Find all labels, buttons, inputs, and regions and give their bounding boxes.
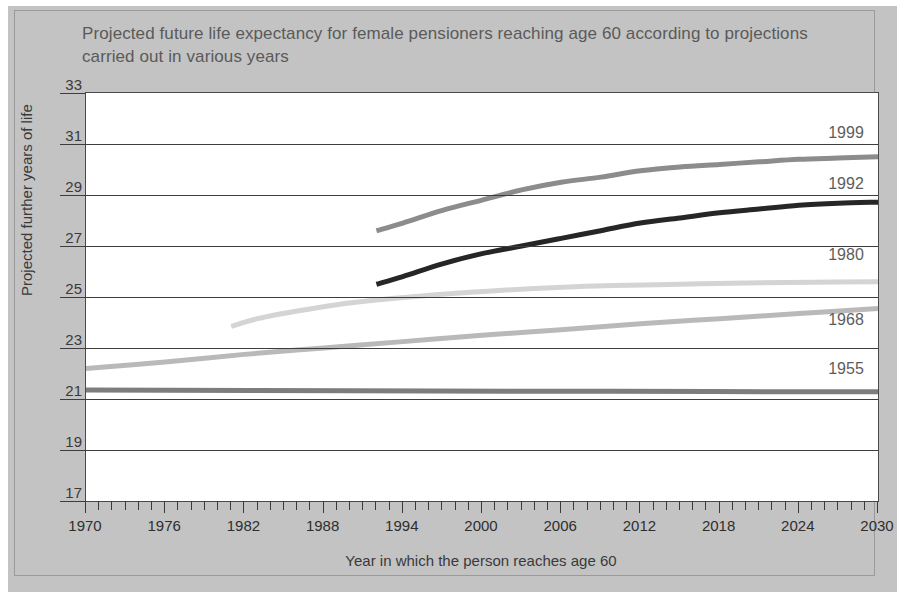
gridline — [86, 348, 878, 349]
x-tick — [85, 501, 86, 513]
x-tick-label: 2030 — [860, 517, 893, 534]
x-tick — [719, 501, 720, 513]
x-tick-label: 2006 — [544, 517, 577, 534]
x-tick — [468, 501, 469, 510]
series-label-1968: 1968 — [828, 311, 864, 329]
x-tick — [98, 501, 99, 510]
x-tick-label: 1994 — [385, 517, 418, 534]
y-tick-label: 23 — [65, 331, 82, 348]
x-tick — [653, 501, 654, 510]
y-tick-label: 31 — [65, 127, 82, 144]
y-tick-label: 33 — [65, 76, 82, 93]
series-line-1955 — [86, 390, 878, 392]
x-tick — [125, 501, 126, 510]
x-tick — [204, 501, 205, 510]
series-label-1999: 1999 — [828, 124, 864, 142]
x-tick — [455, 501, 456, 510]
x-tick — [798, 501, 799, 513]
x-tick-label: 2012 — [623, 517, 656, 534]
x-tick — [362, 501, 363, 510]
y-tick-rule — [60, 348, 86, 349]
x-tick — [323, 501, 324, 513]
x-tick — [811, 501, 812, 510]
x-tick — [600, 501, 601, 510]
x-tick — [415, 501, 416, 510]
x-tick — [837, 501, 838, 510]
y-tick-label: 21 — [65, 382, 82, 399]
x-tick — [138, 501, 139, 510]
x-tick — [296, 501, 297, 510]
x-tick — [217, 501, 218, 510]
y-tick-rule — [60, 297, 86, 298]
x-tick-label: 1988 — [306, 517, 339, 534]
y-tick-label: 19 — [65, 433, 82, 450]
x-tick — [177, 501, 178, 510]
x-tick-label: 2024 — [781, 517, 814, 534]
x-tick — [270, 501, 271, 510]
series-line-1999 — [376, 157, 878, 231]
y-tick-rule — [60, 399, 86, 400]
y-tick-label: 27 — [65, 229, 82, 246]
x-tick — [824, 501, 825, 510]
x-tick — [243, 501, 244, 513]
x-tick — [639, 501, 640, 513]
x-tick-label: 1976 — [148, 517, 181, 534]
x-tick — [587, 501, 588, 510]
series-label-1980: 1980 — [828, 246, 864, 264]
gridline — [86, 195, 878, 196]
chart-title: Projected future life expectancy for fem… — [82, 22, 812, 68]
x-tick — [732, 501, 733, 510]
x-tick — [613, 501, 614, 510]
x-tick — [151, 501, 152, 510]
x-tick — [111, 501, 112, 510]
x-tick — [402, 501, 403, 513]
x-tick — [666, 501, 667, 510]
x-tick — [428, 501, 429, 510]
x-tick — [336, 501, 337, 510]
y-tick-rule — [60, 93, 86, 94]
x-tick — [573, 501, 574, 510]
x-tick — [705, 501, 706, 510]
x-tick — [441, 501, 442, 510]
x-tick — [692, 501, 693, 510]
series-line-1980 — [231, 282, 878, 327]
x-tick — [547, 501, 548, 510]
x-tick — [230, 501, 231, 510]
y-tick-label: 25 — [65, 280, 82, 297]
x-tick — [349, 501, 350, 510]
x-tick — [494, 501, 495, 510]
x-tick — [534, 501, 535, 510]
x-tick — [283, 501, 284, 510]
x-tick — [389, 501, 390, 510]
series-line-1968 — [86, 308, 878, 368]
y-tick-label: 29 — [65, 178, 82, 195]
x-tick — [745, 501, 746, 510]
x-tick — [191, 501, 192, 510]
gridline — [86, 399, 878, 400]
x-tick — [164, 501, 165, 513]
plot-area: 171921232527293133 — [85, 92, 879, 502]
x-tick — [864, 501, 865, 510]
chart-page: Projected future life expectancy for fem… — [0, 0, 905, 600]
x-tick — [679, 501, 680, 510]
x-tick — [877, 501, 878, 513]
x-tick — [257, 501, 258, 510]
y-tick-rule — [60, 501, 86, 502]
x-tick — [481, 501, 482, 513]
x-tick — [309, 501, 310, 510]
series-line-1992 — [376, 202, 878, 284]
x-tick — [626, 501, 627, 510]
x-tick-label: 2018 — [702, 517, 735, 534]
series-label-1955: 1955 — [828, 360, 864, 378]
series-label-1992: 1992 — [828, 175, 864, 193]
gridline — [86, 450, 878, 451]
x-tick — [771, 501, 772, 510]
x-axis-title: Year in which the person reaches age 60 — [85, 552, 877, 569]
gridline — [86, 246, 878, 247]
x-tick — [375, 501, 376, 510]
x-axis: 1970197619821988199420002006201220182024… — [85, 501, 878, 547]
y-tick-rule — [60, 450, 86, 451]
x-tick-label: 2000 — [464, 517, 497, 534]
y-axis-title: Projected further years of life — [18, 104, 35, 296]
y-tick-rule — [60, 195, 86, 196]
